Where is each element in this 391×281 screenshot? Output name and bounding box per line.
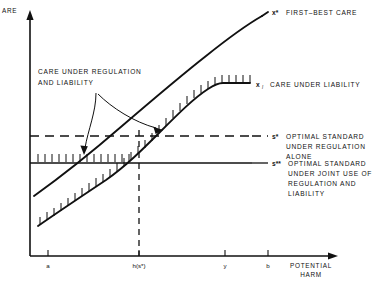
legend-symbol-s-star: s* <box>272 133 279 140</box>
x-axis-label-line1: POTENTIAL <box>290 262 332 269</box>
legend-label-s-star-line1: OPTIMAL STANDARD <box>286 133 364 140</box>
y-axis-group <box>26 10 33 256</box>
legend-label-s-double-star-line1: OPTIMAL STANDARD <box>288 160 366 167</box>
legend-marker-first-best-care <box>262 12 268 16</box>
curve-first-best-care <box>34 16 262 196</box>
legend-label-s-star-line2: UNDER REGULATION <box>286 143 366 150</box>
x-tick-label-a: a <box>46 262 50 269</box>
y-axis-arrowhead <box>26 10 33 20</box>
y-axis-label: ARE <box>2 7 17 14</box>
leader-left-arrowhead <box>80 146 87 155</box>
legend-label-s-double-star-line2: UNDER JOINT USE OF <box>288 170 372 177</box>
economics-diagram-svg: ARE a h(s*) y b POTENTIAL HARM CARE UNDE… <box>0 0 391 281</box>
x-axis-group <box>30 250 338 260</box>
legend-symbol-subscript-care-under-liability: l <box>262 85 264 90</box>
figure-root: ARE a h(s*) y b POTENTIAL HARM CARE UNDE… <box>0 0 391 281</box>
leader-left-curve <box>85 93 96 148</box>
legend-label-s-double-star-line3: REGULATION AND <box>288 180 356 187</box>
legend-symbol-care-under-liability: x <box>256 81 260 88</box>
legend-symbol-first-best-care: x* <box>272 9 279 16</box>
annotation-line1: CARE UNDER REGULATION <box>38 68 142 75</box>
x-tick-label-y: y <box>223 262 227 269</box>
legend-label-s-double-star-line4: LIABILITY <box>288 190 325 197</box>
curve-care-under-liability <box>38 83 250 226</box>
x-axis-arrowhead <box>328 252 338 259</box>
legend-label-s-star-line3: ALONE <box>286 153 312 160</box>
annotation-line2: AND LIABILITY <box>38 79 94 86</box>
legend-label-care-under-liability: CARE UNDER LIABILITY <box>270 81 360 88</box>
x-axis-label-line2: HARM <box>300 271 322 278</box>
x-tick-label-hs-star: h(s*) <box>132 262 145 269</box>
legend-label-first-best-care: FIRST–BEST CARE <box>286 9 357 16</box>
legend-symbol-s-double-star: s** <box>272 160 281 167</box>
x-tick-label-b: b <box>266 262 270 269</box>
